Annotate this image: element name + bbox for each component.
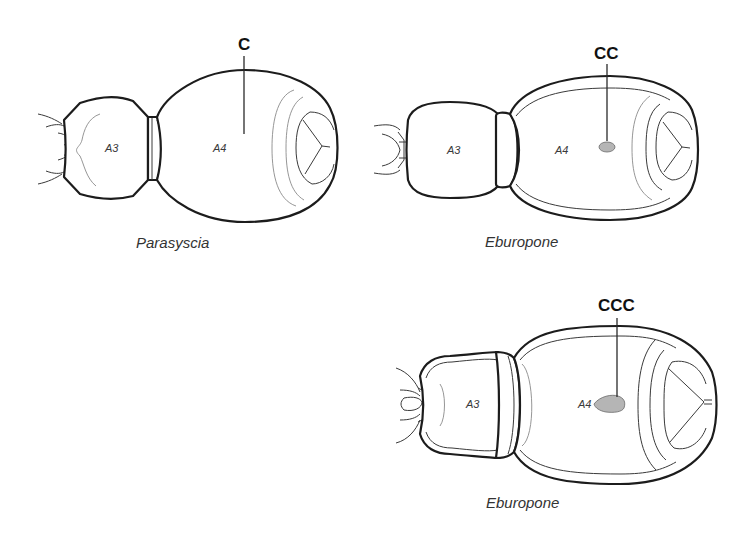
- segment-a4: [157, 70, 338, 222]
- callout-ccc: CCC: [598, 296, 635, 315]
- label-a3: A3: [104, 142, 119, 154]
- anterior-appendages: [374, 125, 406, 174]
- label-a3: A3: [446, 144, 461, 156]
- caption-eburopone-1: Eburopone: [485, 233, 558, 250]
- figure-parasyscia: A3 A4 C Parasyscia: [38, 35, 338, 251]
- label-a4: A4: [577, 398, 591, 410]
- diagram-canvas: A3 A4 C Parasyscia A3: [0, 0, 743, 533]
- caption-eburopone-2: Eburopone: [486, 494, 559, 511]
- label-a4: A4: [554, 144, 568, 156]
- gland-spot-cc: [599, 142, 615, 152]
- caption-parasyscia: Parasyscia: [136, 234, 209, 251]
- callout-c: C: [238, 35, 250, 54]
- figure-eburopone-ccc: A3 A4 CCC Eburopone: [396, 296, 717, 511]
- label-a4: A4: [212, 142, 226, 154]
- label-a3: A3: [465, 398, 480, 410]
- figure-eburopone-cc: A3 A4 CC Eburopone: [374, 44, 698, 250]
- callout-cc: CC: [594, 44, 619, 63]
